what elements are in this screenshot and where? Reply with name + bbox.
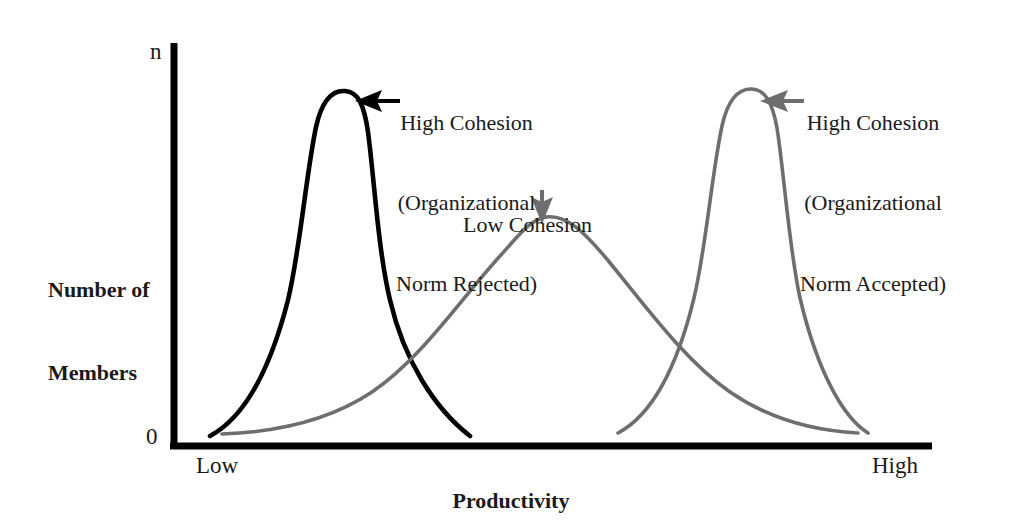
y-axis-title-line-2: Members (48, 359, 150, 387)
y-axis-title-line-1: Number of (48, 276, 150, 304)
annotation-right-line-2: (Organizational (800, 190, 946, 217)
annotation-right-line-3: Norm Accepted) (800, 271, 946, 298)
x-axis-title: Productivity (0, 488, 1022, 515)
annotation-middle-line-1: Low Cohesion (463, 212, 592, 239)
annotation-right-line-1: High Cohesion (800, 110, 946, 137)
annotation-left-line-1: High Cohesion (396, 110, 537, 137)
y-axis-title: Number of Members (48, 221, 150, 441)
x-axis-high-tick-label: High (872, 452, 918, 480)
x-axis-low-tick-label: Low (196, 452, 238, 480)
annotation-high-cohesion-accepted: High Cohesion (Organizational Norm Accep… (800, 56, 946, 351)
y-axis-max-tick-label: n (150, 38, 162, 66)
annotation-low-cohesion: Low Cohesion (463, 158, 592, 292)
arrow-right-annotation-icon (760, 90, 804, 112)
chart-figure: n 0 Number of Members Low High Productiv… (0, 0, 1022, 529)
